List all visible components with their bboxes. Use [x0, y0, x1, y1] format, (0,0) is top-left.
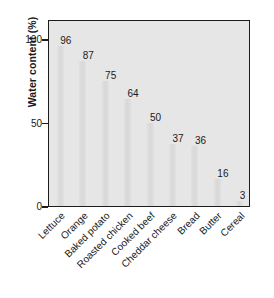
y-axis-tick-label: 100 — [6, 35, 42, 45]
bar-value-label: 50 — [150, 113, 161, 123]
bar — [214, 179, 221, 206]
bar — [191, 146, 198, 206]
bar-value-label: 37 — [172, 134, 183, 144]
bar — [57, 46, 64, 206]
bar-value-label: 64 — [128, 89, 139, 99]
y-axis-tick-label: 0 — [6, 202, 42, 212]
y-axis-tick-label: 50 — [6, 119, 42, 129]
bar-value-label: 96 — [60, 36, 71, 46]
y-axis-tick-label-text: 0 — [16, 202, 42, 212]
bar — [124, 99, 131, 206]
y-axis-tick-label-text: 100 — [16, 35, 42, 45]
bar — [79, 61, 86, 206]
bar-value-label: 3 — [240, 191, 246, 201]
bar-chart-figure: Water content (%) 050100 968775645037361… — [0, 0, 274, 298]
bar — [169, 144, 176, 206]
bar-value-label: 87 — [83, 51, 94, 61]
bar-value-label: 36 — [195, 136, 206, 146]
bar — [147, 123, 154, 206]
bar — [102, 81, 109, 206]
bar-value-label: 16 — [217, 169, 228, 179]
y-axis-tick-label-text: 50 — [16, 119, 42, 129]
bar-value-label: 75 — [105, 71, 116, 81]
bar — [236, 201, 243, 206]
